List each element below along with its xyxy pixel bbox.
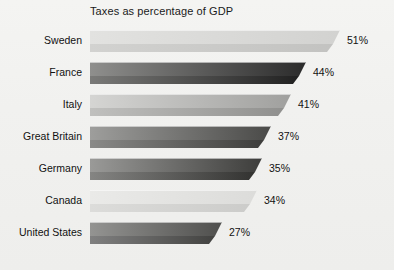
bar-united-states[interactable] bbox=[90, 222, 222, 249]
bar-value-label: 44% bbox=[313, 66, 334, 78]
bar-highlight-edge bbox=[90, 126, 271, 127]
category-label: Sweden bbox=[0, 34, 82, 46]
bar-value-label: 37% bbox=[278, 130, 299, 142]
bar-front-face bbox=[90, 30, 340, 44]
bar-front-face bbox=[90, 62, 306, 76]
bar-row: Germany35% bbox=[0, 158, 394, 185]
category-label: United States bbox=[0, 226, 82, 238]
bar-highlight-edge bbox=[90, 30, 340, 31]
chart-title: Taxes as percentage of GDP bbox=[90, 5, 233, 17]
bar-bottom-face bbox=[90, 172, 262, 180]
bar-canada[interactable] bbox=[90, 190, 257, 217]
bar-france[interactable] bbox=[90, 62, 306, 89]
bar-row: Great Britain37% bbox=[0, 126, 394, 153]
bar-bottom-face bbox=[90, 44, 340, 52]
bar-front-face bbox=[90, 222, 222, 236]
bar-chart: Taxes as percentage of GDP Sweden51%Fran… bbox=[0, 0, 394, 270]
bar-row: Canada34% bbox=[0, 190, 394, 217]
bar-value-label: 35% bbox=[269, 162, 290, 174]
bar-bottom-face bbox=[90, 76, 306, 84]
bar-highlight-edge bbox=[90, 62, 306, 63]
bar-bottom-face bbox=[90, 236, 222, 244]
bar-highlight-edge bbox=[90, 94, 291, 95]
bar-row: France44% bbox=[0, 62, 394, 89]
bar-row: United States27% bbox=[0, 222, 394, 249]
bar-bottom-face bbox=[90, 108, 291, 116]
bar-front-face bbox=[90, 94, 291, 108]
bar-bottom-face bbox=[90, 204, 257, 212]
bar-great-britain[interactable] bbox=[90, 126, 271, 153]
bar-value-label: 41% bbox=[298, 98, 319, 110]
category-label: Canada bbox=[0, 194, 82, 206]
bar-highlight-edge bbox=[90, 190, 257, 191]
bar-value-label: 34% bbox=[264, 194, 285, 206]
bar-front-face bbox=[90, 190, 257, 204]
bar-italy[interactable] bbox=[90, 94, 291, 121]
bar-front-face bbox=[90, 126, 271, 140]
category-label: France bbox=[0, 66, 82, 78]
bar-germany[interactable] bbox=[90, 158, 262, 185]
bar-front-face bbox=[90, 158, 262, 172]
bar-row: Sweden51% bbox=[0, 30, 394, 57]
category-label: Italy bbox=[0, 98, 82, 110]
bar-value-label: 51% bbox=[347, 34, 368, 46]
bar-sweden[interactable] bbox=[90, 30, 340, 57]
bar-value-label: 27% bbox=[229, 226, 250, 238]
category-label: Germany bbox=[0, 162, 82, 174]
bar-bottom-face bbox=[90, 140, 271, 148]
bar-highlight-edge bbox=[90, 222, 222, 223]
category-label: Great Britain bbox=[0, 130, 82, 142]
plot-area: Sweden51%France44%Italy41%Great Britain3… bbox=[0, 26, 394, 266]
bar-highlight-edge bbox=[90, 158, 262, 159]
bar-row: Italy41% bbox=[0, 94, 394, 121]
